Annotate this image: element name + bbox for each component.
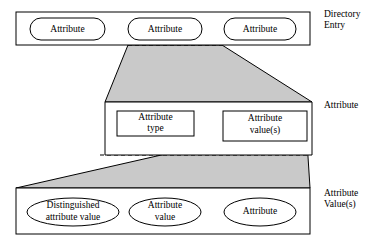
level-directory-entry: Attribute Attribute Attribute Directory … [16, 9, 361, 45]
zoom-band-upper [105, 45, 312, 102]
level-attribute: Attribute type Attribute value(s) Attrib… [105, 100, 358, 155]
diagram-root: Attribute Attribute Attribute Directory … [0, 0, 382, 246]
entry-attribute-3-label: Attribute [243, 24, 277, 34]
level-attribute-values: Distinguished attribute value Attribute … [16, 188, 358, 234]
attribute-values-side-label-line2: Value(s) [324, 199, 356, 210]
attribute-type-label-line1: Attribute [138, 112, 172, 122]
attribute-plain-label: Attribute [243, 206, 277, 216]
attribute-value-label-line2: value [155, 212, 176, 222]
entry-attribute-1-label: Attribute [50, 24, 84, 34]
distinguished-attribute-value-label-line2: attribute value [46, 212, 101, 222]
attribute-side-label-line1: Attribute [324, 100, 358, 110]
attribute-values-side-label-line1: Attribute [324, 188, 358, 198]
zoom-band-upper-shape [105, 45, 312, 102]
attribute-value-label-line1: Attribute [148, 200, 182, 210]
directory-entry-side-label-line2: Entry [324, 20, 345, 30]
directory-entry-side-label-line1: Directory [324, 9, 361, 19]
directory-entry-diagram: Attribute Attribute Attribute Directory … [0, 0, 382, 246]
attribute-values-label-line1: Attribute [248, 113, 282, 123]
distinguished-attribute-value-label-line1: Distinguished [47, 200, 100, 210]
attribute-values-label-line2: value(s) [250, 125, 281, 136]
entry-attribute-2-label: Attribute [148, 24, 182, 34]
attribute-type-label-line2: type [147, 123, 163, 133]
